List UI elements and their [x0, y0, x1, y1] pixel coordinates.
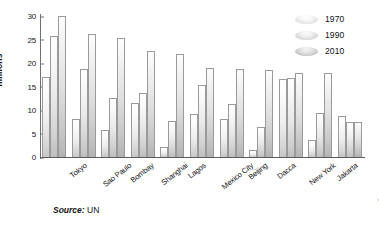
bar-tokyo-2010	[58, 16, 66, 157]
bar-jakarta-1970	[308, 140, 316, 157]
bar-london-2010	[354, 122, 362, 157]
bar-lagos-1990	[168, 121, 176, 157]
x-label-sao-paulo: Sao Paulo	[101, 161, 133, 189]
bar-jakarta-2010	[324, 73, 332, 157]
bar-group	[190, 16, 214, 157]
y-tick-label: 10	[28, 106, 42, 115]
y-tick-label: 15	[28, 82, 42, 91]
bar-shanghai-1970	[131, 103, 139, 157]
source-note: Source: UN	[53, 205, 99, 215]
source-value: UN	[87, 205, 99, 215]
legend-item-2010[interactable]: 2010	[295, 43, 373, 59]
x-axis-line	[40, 157, 365, 158]
bar-lagos-1970	[160, 147, 168, 157]
bar-london-1970	[338, 116, 346, 157]
bar-sao-paulo-1990	[80, 69, 88, 157]
legend-item-1970[interactable]: 1970	[295, 11, 373, 27]
bar-dacca-1970	[249, 150, 257, 157]
bar-group	[249, 16, 273, 157]
bar-london-1990	[346, 122, 354, 157]
y-axis-title: millions	[0, 54, 4, 87]
y-tick-label: 20	[28, 59, 42, 68]
bar-beijing-1990	[228, 104, 236, 157]
legend-swatch-icon	[295, 31, 318, 40]
x-label-dacca: Dacca	[275, 161, 297, 181]
bar-dacca-1990	[257, 127, 265, 157]
bar-beijing-1970	[220, 119, 228, 157]
x-axis-labels: TokyoSao PauloBombayShanghaiLagosMexico …	[41, 159, 363, 225]
y-tick-label: 25	[28, 35, 42, 44]
y-tick-label: 30	[28, 12, 42, 21]
legend-swatch-icon	[295, 47, 318, 56]
bar-mexico-city-2010	[206, 68, 214, 157]
population-bar-chart: millions 051015202530 TokyoSao PauloBomb…	[0, 0, 379, 229]
bar-shanghai-1990	[139, 93, 147, 157]
legend-label: 1990	[325, 30, 344, 40]
source-label: Source:	[53, 205, 85, 215]
legend-swatch-icon	[295, 15, 318, 24]
bar-group	[101, 16, 125, 157]
bar-group	[72, 16, 96, 157]
x-label-jakarta: Jakarta	[335, 161, 359, 183]
bar-group	[160, 16, 184, 157]
x-label-tokyo: Tokyo	[68, 161, 89, 180]
bar-group	[131, 16, 155, 157]
chart-legend: 197019902010	[295, 11, 373, 59]
x-label-shanghai: Shanghai	[160, 161, 190, 187]
x-label-lagos: Lagos	[186, 161, 207, 180]
bar-lagos-2010	[176, 54, 184, 157]
bar-sao-paulo-1970	[72, 119, 80, 157]
bar-dacca-2010	[265, 70, 273, 157]
bar-bombay-1990	[109, 98, 117, 157]
bar-group	[220, 16, 244, 157]
legend-label: 2010	[325, 46, 344, 56]
bar-new-york-1990	[287, 78, 295, 157]
bar-tokyo-1990	[50, 36, 58, 157]
legend-item-1990[interactable]: 1990	[295, 27, 373, 43]
bar-jakarta-1990	[316, 113, 324, 157]
x-label-london: London(for comparison)	[371, 161, 379, 206]
bar-bombay-1970	[101, 130, 109, 157]
bar-group	[42, 16, 66, 157]
y-tick-label: 5	[32, 129, 41, 138]
y-tick-mark	[41, 157, 44, 158]
y-tick-label: 0	[32, 153, 41, 162]
bar-sao-paulo-2010	[88, 34, 96, 157]
x-label-new-york: New York	[308, 161, 338, 187]
bar-mexico-city-1990	[198, 85, 206, 157]
x-label-bombay: Bombay	[129, 161, 156, 185]
bar-shanghai-2010	[147, 51, 155, 157]
bar-mexico-city-1970	[190, 114, 198, 157]
bar-new-york-2010	[295, 73, 303, 157]
bar-tokyo-1970	[42, 77, 50, 157]
bar-new-york-1970	[279, 79, 287, 157]
legend-label: 1970	[325, 14, 344, 24]
bar-beijing-2010	[236, 69, 244, 157]
bar-bombay-2010	[117, 38, 125, 157]
